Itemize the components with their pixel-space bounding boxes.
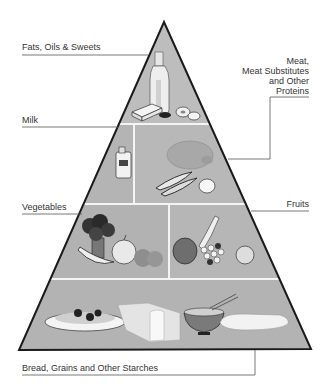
milk-illustrations <box>116 147 131 178</box>
label-meat-line-2: Meat Substitutes <box>199 66 309 76</box>
label-meat-line-1: Meat, <box>199 56 309 66</box>
label-meat-line-4: Proteins <box>199 86 309 96</box>
label-bread-grains-starches: Bread, Grains and Other Starches <box>22 363 158 373</box>
label-vegetables: Vegetables <box>22 202 67 212</box>
apple-icon <box>173 238 197 264</box>
label-meat: Meat, Meat Substitutes and Other Protein… <box>199 56 309 96</box>
label-milk: Milk <box>22 115 38 125</box>
label-fruits: Fruits <box>249 199 309 209</box>
milk-jug-icon <box>116 147 131 178</box>
label-fats-oils-sweets: Fats, Oils & Sweets <box>22 42 101 52</box>
baguette-icon <box>220 314 288 330</box>
orange-icon <box>236 246 254 264</box>
chicken-icon <box>167 141 213 169</box>
tier-vegetables <box>51 205 168 278</box>
label-meat-line-3: and Other <box>199 76 309 86</box>
leader-meat <box>228 97 309 159</box>
egg-icon <box>199 179 215 193</box>
